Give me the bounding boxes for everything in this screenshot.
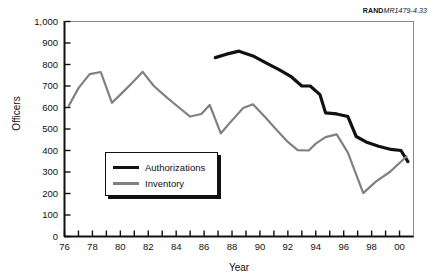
legend-label-authorizations: Authorizations [145, 162, 205, 173]
legend-item-inventory: Inventory [113, 176, 184, 190]
legend-label-inventory: Inventory [145, 178, 184, 189]
legend-line-swatch-authorizations [113, 166, 139, 169]
plot-canvas [0, 0, 433, 280]
legend-item-authorizations: Authorizations [113, 160, 205, 174]
legend-line-swatch-inventory [113, 182, 139, 185]
legend-box: Authorizations Inventory [105, 152, 218, 196]
chart-figure: RANDMR1479-4.33 Officers Year 0100200300… [0, 0, 433, 280]
axis-group [64, 21, 414, 237]
